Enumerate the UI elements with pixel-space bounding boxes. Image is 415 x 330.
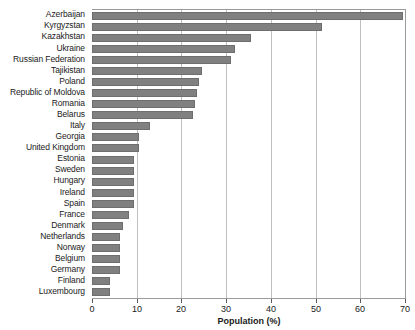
- plot-area: [92, 9, 406, 299]
- bar[interactable]: [92, 167, 134, 175]
- bar[interactable]: [92, 277, 110, 285]
- bar-row: [92, 132, 405, 143]
- category-label: Sweden: [0, 164, 89, 175]
- category-label: Italy: [0, 120, 89, 131]
- x-tick-label: 50: [311, 304, 321, 314]
- category-label: Germany: [0, 264, 89, 275]
- bar[interactable]: [92, 200, 134, 208]
- bar-row: [92, 287, 405, 298]
- category-axis-labels: AzerbaijanKyrgyzstanKazakhstanUkraineRus…: [0, 9, 89, 297]
- category-label: Luxembourg: [0, 286, 89, 297]
- bar-row: [92, 154, 405, 165]
- category-label: Tajikistan: [0, 64, 89, 75]
- x-tick-label: 60: [355, 304, 365, 314]
- bar-row: [92, 165, 405, 176]
- bar[interactable]: [92, 178, 134, 186]
- bar-row: [92, 276, 405, 287]
- bar[interactable]: [92, 255, 120, 263]
- category-label: Denmark: [0, 219, 89, 230]
- bar-row: [92, 198, 405, 209]
- x-axis-title: Population (%): [92, 316, 406, 326]
- bar[interactable]: [92, 78, 199, 86]
- bar-row: [92, 254, 405, 265]
- bar[interactable]: [92, 133, 139, 141]
- bar[interactable]: [92, 111, 193, 119]
- category-label: Azerbaijan: [0, 9, 89, 20]
- category-label: Belarus: [0, 109, 89, 120]
- bar-row: [92, 43, 405, 54]
- x-tick-mark: [405, 299, 406, 303]
- x-tick-mark: [137, 299, 138, 303]
- bar-row: [92, 265, 405, 276]
- x-tick-label: 40: [266, 304, 276, 314]
- category-label: Kazakhstan: [0, 31, 89, 42]
- bar[interactable]: [92, 34, 251, 42]
- bar[interactable]: [92, 56, 231, 64]
- bar-row: [92, 110, 405, 121]
- category-label: United Kingdom: [0, 142, 89, 153]
- category-label: Estonia: [0, 153, 89, 164]
- x-tick-label: 0: [89, 304, 94, 314]
- bar[interactable]: [92, 233, 120, 241]
- bar[interactable]: [92, 222, 123, 230]
- bar[interactable]: [92, 144, 139, 152]
- category-label: Republic of Moldova: [0, 87, 89, 98]
- bar[interactable]: [92, 45, 235, 53]
- x-tick-mark: [92, 299, 93, 303]
- bar[interactable]: [92, 288, 110, 296]
- bar-row: [92, 32, 405, 43]
- bar-row: [92, 220, 405, 231]
- bar[interactable]: [92, 211, 129, 219]
- bar[interactable]: [92, 12, 403, 20]
- bar-row: [92, 209, 405, 220]
- bars-layer: [92, 10, 405, 298]
- bar[interactable]: [92, 156, 134, 164]
- x-tick-mark: [181, 299, 182, 303]
- bar[interactable]: [92, 89, 197, 97]
- bar-row: [92, 232, 405, 243]
- bar[interactable]: [92, 67, 202, 75]
- category-label: Poland: [0, 75, 89, 86]
- bar-row: [92, 65, 405, 76]
- category-label: Ukraine: [0, 42, 89, 53]
- bar[interactable]: [92, 23, 322, 31]
- category-label: Russian Federation: [0, 53, 89, 64]
- x-tick-label: 20: [176, 304, 186, 314]
- category-label: Romania: [0, 98, 89, 109]
- bar-row: [92, 76, 405, 87]
- bar[interactable]: [92, 100, 195, 108]
- bar[interactable]: [92, 189, 134, 197]
- category-label: Belgium: [0, 253, 89, 264]
- bar[interactable]: [92, 266, 120, 274]
- category-label: France: [0, 208, 89, 219]
- category-label: Netherlands: [0, 231, 89, 242]
- bar-row: [92, 187, 405, 198]
- bar-chart: AzerbaijanKyrgyzstanKazakhstanUkraineRus…: [0, 0, 415, 330]
- category-label: Kyrgyzstan: [0, 20, 89, 31]
- bar-row: [92, 143, 405, 154]
- category-label: Georgia: [0, 131, 89, 142]
- bar-row: [92, 176, 405, 187]
- x-tick-label: 30: [221, 304, 231, 314]
- bar-row: [92, 21, 405, 32]
- bar-row: [92, 54, 405, 65]
- category-label: Spain: [0, 197, 89, 208]
- x-tick-label: 10: [132, 304, 142, 314]
- category-label: Ireland: [0, 186, 89, 197]
- x-tick-label: 70: [400, 304, 410, 314]
- x-tick-mark: [360, 299, 361, 303]
- x-tick-mark: [316, 299, 317, 303]
- category-label: Norway: [0, 242, 89, 253]
- bar-row: [92, 10, 405, 21]
- x-tick-mark: [226, 299, 227, 303]
- bar[interactable]: [92, 244, 120, 252]
- category-label: Hungary: [0, 175, 89, 186]
- bar-row: [92, 243, 405, 254]
- bar-row: [92, 99, 405, 110]
- bar-row: [92, 121, 405, 132]
- category-label: Finland: [0, 275, 89, 286]
- x-tick-mark: [271, 299, 272, 303]
- bar[interactable]: [92, 122, 150, 130]
- bar-row: [92, 88, 405, 99]
